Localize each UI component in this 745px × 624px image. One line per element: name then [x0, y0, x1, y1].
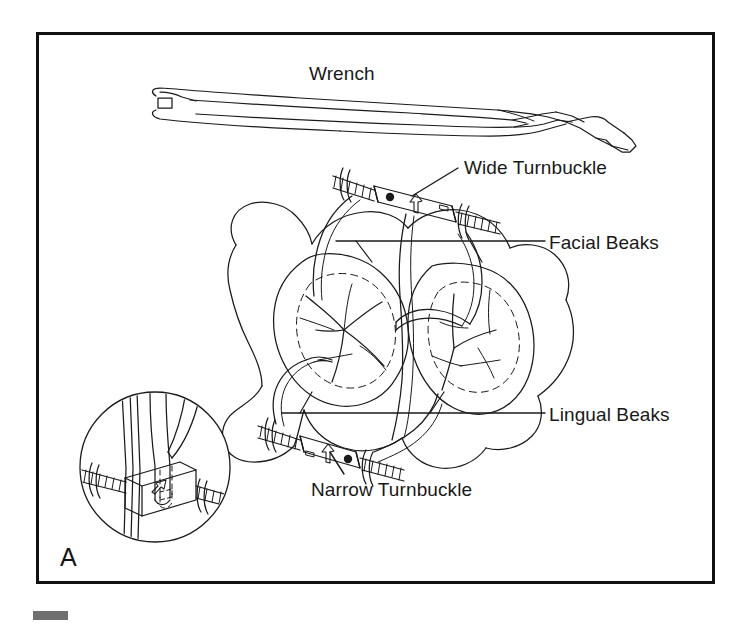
inset-detail-circle — [80, 392, 238, 542]
label-wrench: Wrench — [309, 63, 375, 85]
leader-wide-turnbuckle — [412, 168, 458, 196]
scan-artifact-mark — [33, 611, 68, 620]
label-lingual-beaks: Lingual Beaks — [549, 404, 670, 426]
label-facial-beaks: Facial Beaks — [549, 232, 659, 254]
figure-illustration — [0, 0, 745, 624]
dot-marker-icon — [386, 193, 394, 201]
figure-panel-a: Wrench Wide Turnbuckle Facial Beaks Ling… — [0, 0, 745, 624]
narrow-turnbuckle-assembly — [258, 357, 442, 486]
label-wide-turnbuckle: Wide Turnbuckle — [464, 157, 607, 179]
label-narrow-turnbuckle: Narrow Turnbuckle — [311, 479, 472, 501]
panel-letter-a: A — [60, 543, 77, 572]
dot-marker-icon — [344, 455, 352, 463]
wide-turnbuckle-assembly — [313, 168, 500, 330]
wrench-illustration — [153, 88, 636, 152]
palatal-anatomy-illustration — [222, 202, 573, 468]
